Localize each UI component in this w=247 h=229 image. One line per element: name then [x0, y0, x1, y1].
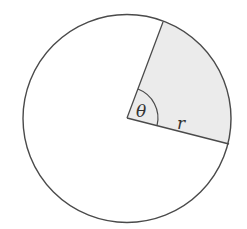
angle-label-theta: θ: [136, 101, 146, 121]
radius-label-r: r: [177, 113, 186, 133]
circle-sector-diagram: θ r: [0, 0, 247, 229]
diagram-canvas: θ r: [0, 0, 247, 229]
